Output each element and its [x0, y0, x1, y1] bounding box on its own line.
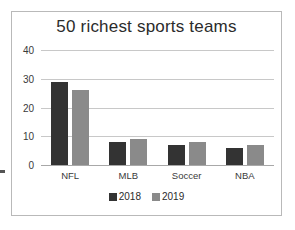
bar [247, 145, 264, 165]
x-tick-label: NFL [41, 170, 99, 181]
y-tick-label: 20 [23, 102, 34, 113]
bar-group [158, 50, 216, 165]
legend-swatch [152, 193, 160, 201]
bar-groups [41, 50, 274, 165]
chart-legend: 20182019 [11, 191, 282, 202]
y-tick-label: 30 [23, 73, 34, 84]
edge-artifact-mark [0, 170, 5, 173]
chart-page: 50 richest sports teams 010203040 NFLMLB… [0, 0, 295, 230]
bar [51, 82, 68, 165]
plot-area: 010203040 [41, 50, 274, 165]
bar [72, 90, 89, 165]
bar [130, 139, 147, 165]
x-tick-label: NBA [216, 170, 274, 181]
bar [226, 148, 243, 165]
chart-title: 50 richest sports teams [11, 17, 282, 37]
bar-group [216, 50, 274, 165]
y-tick-label: 40 [23, 45, 34, 56]
bar [189, 142, 206, 165]
legend-label: 2019 [162, 191, 184, 202]
legend-swatch [109, 193, 117, 201]
legend-item: 2018 [109, 191, 141, 202]
bar [109, 142, 126, 165]
legend-item: 2019 [152, 191, 184, 202]
bar-group [99, 50, 157, 165]
legend-label: 2018 [119, 191, 141, 202]
axis-baseline: 0 [41, 165, 274, 166]
x-tick-label: Soccer [158, 170, 216, 181]
bar-group [41, 50, 99, 165]
y-tick-label: 0 [28, 160, 34, 171]
x-axis-labels: NFLMLBSoccerNBA [41, 170, 274, 181]
bar [168, 145, 185, 165]
x-tick-label: MLB [99, 170, 157, 181]
y-tick-label: 10 [23, 131, 34, 142]
